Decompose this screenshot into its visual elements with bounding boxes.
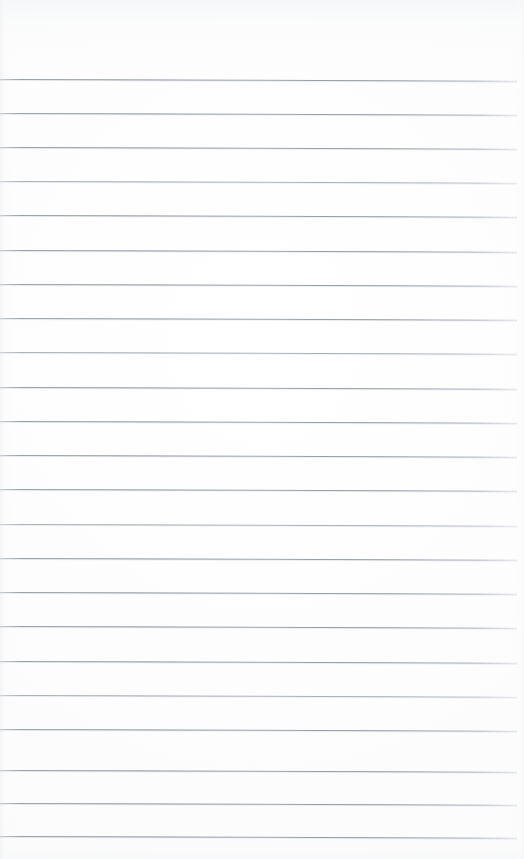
writing-row [0, 627, 524, 661]
writing-row [0, 388, 524, 421]
writing-row [0, 559, 524, 592]
writing-row [0, 422, 524, 455]
writing-row [0, 114, 524, 147]
writing-row [0, 771, 524, 803]
writing-row [0, 216, 524, 250]
page-footer-margin [0, 837, 524, 859]
writing-row [0, 319, 524, 352]
ruled-line-layer [0, 0, 524, 859]
writing-row [0, 490, 524, 524]
writing-row [0, 804, 524, 836]
writing-row [0, 285, 524, 318]
writing-row [0, 456, 524, 489]
writing-row [0, 251, 524, 284]
scanned-page [0, 0, 524, 859]
writing-row [0, 80, 524, 113]
writing-row [0, 353, 524, 387]
writing-row [0, 525, 524, 558]
writing-row [0, 182, 524, 215]
writing-row [0, 662, 524, 695]
writing-row [0, 148, 524, 181]
writing-row [0, 696, 524, 729]
writing-row [0, 593, 524, 626]
writing-row [0, 730, 524, 770]
